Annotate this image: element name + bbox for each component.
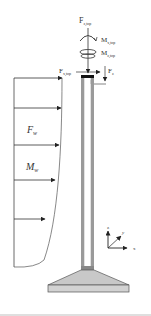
svg-text:Fz: Fz bbox=[108, 67, 114, 76]
svg-text:Fx,top: Fx,top bbox=[59, 67, 71, 77]
top-cap bbox=[81, 75, 94, 78]
svg-text:y: y bbox=[121, 230, 125, 235]
svg-text:x: x bbox=[133, 246, 136, 251]
wind-load-distribution: Fw Mw bbox=[14, 78, 62, 267]
top-loads: Fz,top Mx,top Mz,top bbox=[79, 16, 115, 73]
fz-top-label: Fz,top bbox=[79, 16, 91, 27]
svg-text:Mz,top: Mz,top bbox=[101, 49, 115, 59]
fw-label: Fw bbox=[26, 124, 37, 136]
svg-text:Mx,top: Mx,top bbox=[101, 36, 115, 46]
base bbox=[48, 270, 129, 292]
fz-load: Fz bbox=[91, 66, 114, 84]
mw-label: Mw bbox=[25, 161, 38, 173]
svg-text:z: z bbox=[107, 225, 110, 230]
coordinate-axes: z y x bbox=[107, 225, 136, 251]
load-diagram: Fz,top Mx,top Mz,top Fx,top Fz bbox=[0, 0, 151, 316]
post bbox=[81, 75, 94, 270]
